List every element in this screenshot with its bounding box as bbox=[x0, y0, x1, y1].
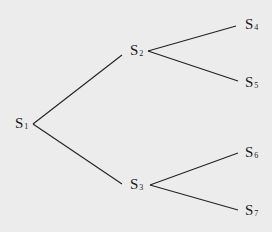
node-s4: S4 bbox=[245, 17, 258, 32]
node-s7: S7 bbox=[245, 203, 258, 218]
node-s2-letter: S bbox=[130, 42, 138, 58]
edge-s2-s4 bbox=[148, 26, 236, 51]
edge-s3-s6 bbox=[150, 153, 238, 185]
edge-s1-s2 bbox=[33, 55, 122, 124]
node-s1-subscript: 1 bbox=[24, 122, 28, 131]
node-s7-subscript: 7 bbox=[254, 209, 258, 218]
tree-edges bbox=[0, 0, 272, 232]
edge-s2-s5 bbox=[148, 51, 238, 81]
node-s3: S3 bbox=[130, 177, 143, 192]
node-s6-subscript: 6 bbox=[254, 151, 258, 160]
node-s5: S5 bbox=[245, 75, 258, 90]
node-s4-letter: S bbox=[245, 16, 253, 32]
node-s6: S6 bbox=[245, 145, 258, 160]
node-s7-letter: S bbox=[245, 202, 253, 218]
edge-s1-s3 bbox=[33, 124, 122, 184]
node-s1-letter: S bbox=[15, 115, 23, 131]
node-s5-letter: S bbox=[245, 74, 253, 90]
node-s1: S1 bbox=[15, 116, 28, 131]
tree-diagram: S1 S2 S3 S4 S5 S6 S7 bbox=[0, 0, 272, 232]
node-s2-subscript: 2 bbox=[139, 49, 143, 58]
edge-s3-s7 bbox=[150, 185, 238, 210]
node-s4-subscript: 4 bbox=[254, 23, 258, 32]
node-s6-letter: S bbox=[245, 144, 253, 160]
node-s3-letter: S bbox=[130, 176, 138, 192]
node-s2: S2 bbox=[130, 43, 143, 58]
node-s3-subscript: 3 bbox=[139, 183, 143, 192]
node-s5-subscript: 5 bbox=[254, 81, 258, 90]
